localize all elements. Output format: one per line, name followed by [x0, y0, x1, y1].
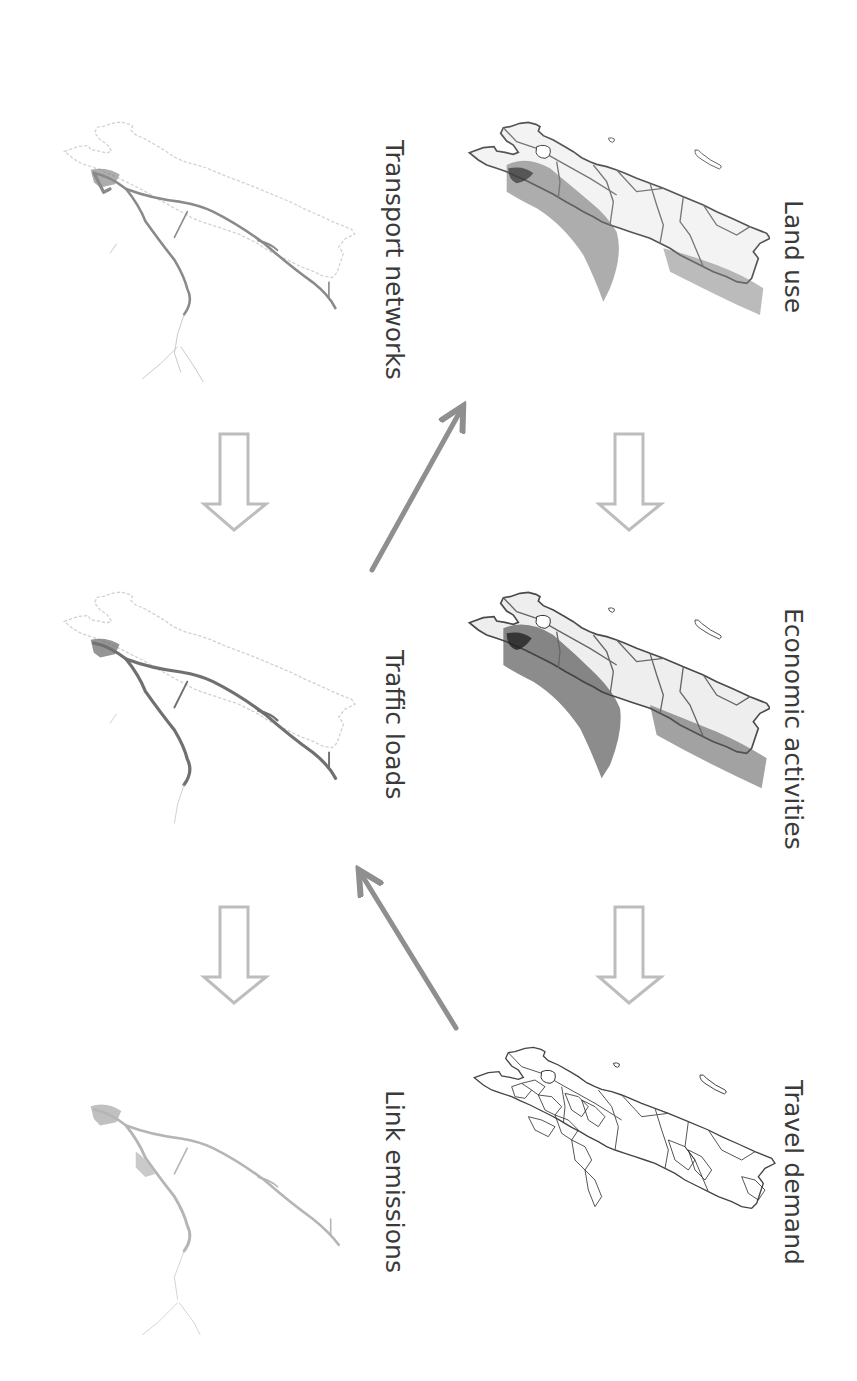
modeling-flow-diagram: Land use Economic activities Travel dema… — [0, 0, 857, 1381]
feedback-arrows — [0, 0, 857, 1381]
arrow-travel-demand-to-traffic — [360, 872, 456, 1028]
arrow-traffic-to-land-use — [372, 408, 462, 570]
